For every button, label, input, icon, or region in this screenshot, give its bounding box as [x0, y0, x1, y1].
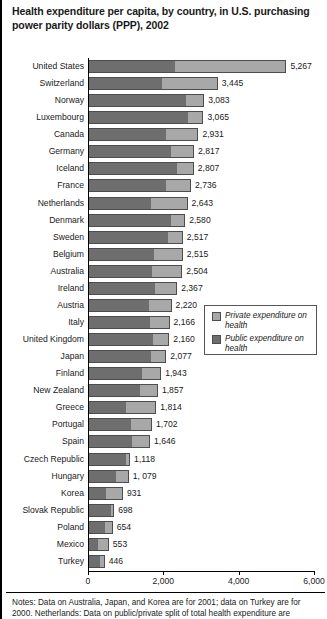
stacked-bar[interactable] — [88, 248, 183, 261]
bar-value-label: 1,118 — [134, 453, 155, 466]
notes-line-1: Notes: Data on Australia, Japan, and Kor… — [12, 598, 324, 609]
stacked-bar[interactable] — [88, 367, 161, 380]
bar-value-label: 5,267 — [290, 60, 312, 73]
category-label: Austria — [0, 299, 88, 311]
stacked-bar[interactable] — [88, 179, 191, 192]
stacked-bar[interactable] — [88, 470, 129, 483]
stacked-bar[interactable] — [88, 384, 158, 397]
chart-row: Turkey446 — [2, 553, 327, 572]
notes-line-2: 2000. Netherlands: Data on public/privat… — [12, 609, 324, 619]
stacked-bar[interactable] — [88, 435, 150, 448]
stacked-bar[interactable] — [88, 162, 194, 175]
bar-value-label: 2,931 — [202, 128, 224, 141]
category-label: Spain — [0, 435, 88, 447]
bar-segment-public — [89, 488, 106, 499]
stacked-bar[interactable] — [88, 231, 183, 244]
bar-value-label: 1,646 — [154, 435, 176, 448]
chart-notes: Notes: Data on Australia, Japan, and Kor… — [12, 598, 324, 619]
stacked-bar[interactable] — [88, 60, 286, 73]
figure-frame: Health expenditure per capita, by countr… — [0, 0, 327, 619]
stacked-bar[interactable] — [88, 145, 194, 158]
bar-segment-private — [168, 232, 182, 243]
bar-segment-public — [89, 402, 126, 413]
stacked-bar[interactable] — [88, 94, 204, 107]
bar-segment-private — [171, 146, 193, 157]
stacked-bar[interactable] — [88, 111, 203, 124]
stacked-bar[interactable] — [88, 504, 114, 517]
bar-segment-private — [140, 385, 157, 396]
bar-segment-public — [89, 522, 105, 533]
category-label: France — [0, 179, 88, 191]
bar-value-label: 3,445 — [222, 77, 244, 90]
bar-value-label: 2,643 — [192, 197, 214, 210]
stacked-bar[interactable] — [88, 299, 172, 312]
bar-segment-private — [171, 215, 184, 226]
bar-segment-private — [132, 436, 149, 447]
category-label: Ireland — [0, 282, 88, 294]
category-label: United States — [0, 60, 88, 72]
stacked-bar[interactable] — [88, 316, 170, 329]
bar-segment-private — [98, 539, 108, 550]
y-axis-line — [88, 58, 89, 571]
stacked-bar[interactable] — [88, 487, 123, 500]
bar-segment-public — [89, 95, 186, 106]
stacked-bar[interactable] — [88, 214, 185, 227]
stacked-bar[interactable] — [88, 333, 169, 346]
bar-segment-public — [89, 112, 188, 123]
category-label: Mexico — [0, 538, 88, 550]
bar-segment-public — [89, 334, 153, 345]
category-label: Korea — [0, 487, 88, 499]
stacked-bar[interactable] — [88, 350, 166, 363]
category-label: Canada — [0, 128, 88, 140]
stacked-bar[interactable] — [88, 197, 188, 210]
stacked-bar[interactable] — [88, 128, 198, 141]
bar-segment-public — [89, 368, 142, 379]
bar-segment-public — [89, 436, 132, 447]
category-label: Denmark — [0, 214, 88, 226]
stacked-bar[interactable] — [88, 282, 177, 295]
stacked-bar[interactable] — [88, 265, 182, 278]
x-axis-tick-label: 6,000 — [303, 576, 325, 586]
bar-segment-private — [131, 419, 151, 430]
stacked-bar[interactable] — [88, 453, 130, 466]
bar-value-label: 1,814 — [160, 401, 182, 414]
bar-segment-private — [166, 180, 190, 191]
stacked-bar[interactable] — [88, 77, 218, 90]
bar-segment-private — [166, 129, 198, 140]
category-label: Turkey — [0, 555, 88, 567]
bar-segment-private — [152, 266, 181, 277]
bar-segment-public — [89, 539, 98, 550]
bar-segment-private — [150, 317, 169, 328]
bar-segment-public — [89, 266, 152, 277]
stacked-bar[interactable] — [88, 521, 113, 534]
bar-segment-private — [126, 454, 130, 465]
stacked-bar[interactable] — [88, 538, 109, 551]
bar-value-label: 2,077 — [170, 350, 192, 363]
bar-segment-private — [177, 163, 192, 174]
bar-segment-private — [111, 505, 114, 516]
bar-segment-private — [116, 471, 127, 482]
category-label: Belgium — [0, 248, 88, 260]
category-label: Iceland — [0, 162, 88, 174]
stacked-bar[interactable] — [88, 555, 105, 568]
bar-segment-public — [89, 505, 111, 516]
bar-segment-private — [154, 249, 182, 260]
category-label: Finland — [0, 367, 88, 379]
stacked-bar[interactable] — [88, 418, 152, 431]
bar-segment-private — [186, 95, 203, 106]
bar-segment-public — [89, 232, 168, 243]
bar-segment-private — [126, 402, 155, 413]
legend-item-private: Private expenditure on health — [212, 311, 311, 330]
chart-legend: Private expenditure on health Public exp… — [204, 305, 317, 355]
bar-segment-public — [89, 471, 116, 482]
stacked-bar[interactable] — [88, 401, 156, 414]
bar-value-label: 2,580 — [189, 214, 211, 227]
bar-segment-public — [89, 300, 149, 311]
bar-segment-public — [89, 78, 162, 89]
bar-value-label: 1,702 — [156, 418, 178, 431]
category-label: New Zealand — [0, 384, 88, 396]
bar-value-label: 2,504 — [186, 265, 208, 278]
bar-value-label: 2,807 — [198, 162, 220, 175]
bar-segment-private — [106, 488, 122, 499]
legend-item-public: Public expenditure on health — [212, 334, 311, 353]
